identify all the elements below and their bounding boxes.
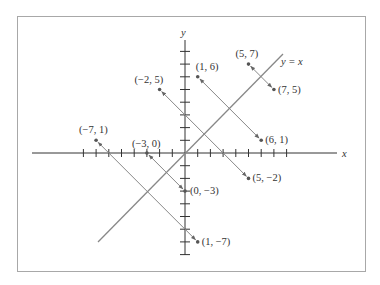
- point-label: (5, −2): [253, 172, 282, 184]
- point-dot: [183, 189, 187, 193]
- point-dot: [196, 240, 200, 244]
- point-label: (−3, 0): [132, 138, 161, 150]
- y-axis-label: y: [180, 27, 186, 38]
- point-dot: [94, 139, 98, 143]
- point-label: (1, −7): [202, 236, 231, 248]
- point-label: (0, −3): [190, 185, 219, 197]
- point-dot: [196, 75, 200, 79]
- point-label: (6, 1): [265, 134, 288, 146]
- line-y-equals-x: [98, 54, 283, 242]
- reflection-pair: (−2, 5)(5, −2): [135, 74, 282, 185]
- reflection-diagram: x y y = x (5, 7)(7, 5)(1, 6)(6, 1)(−2, 5…: [0, 0, 380, 285]
- point-dot: [247, 177, 251, 181]
- line-y-equals-x-label: y = x: [280, 56, 303, 67]
- point-label: (7, 5): [278, 84, 301, 96]
- reflection-pair: (−3, 0)(0, −3): [132, 138, 219, 197]
- x-axis-label: x: [341, 148, 347, 159]
- point-label: (−7, 1): [79, 124, 108, 136]
- point-dot: [158, 88, 162, 92]
- point-dot: [247, 62, 251, 66]
- point-label: (1, 6): [196, 61, 219, 73]
- reflection-pair: (1, 6)(6, 1): [196, 61, 289, 147]
- point-label: (5, 7): [236, 48, 259, 60]
- point-label: (−2, 5): [135, 74, 164, 86]
- point-dot: [259, 139, 263, 143]
- point-dot: [272, 88, 276, 92]
- point-dot: [145, 151, 149, 155]
